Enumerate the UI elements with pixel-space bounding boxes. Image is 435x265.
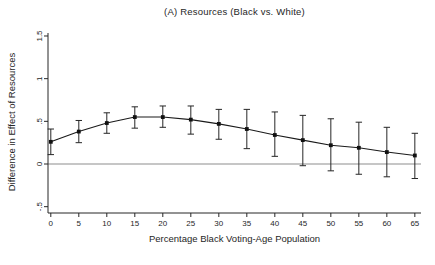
- data-point-marker: [301, 138, 305, 142]
- data-point-marker: [161, 115, 165, 119]
- data-point-marker: [413, 154, 417, 158]
- data-point-marker: [385, 150, 389, 154]
- x-tick-label: 50: [326, 219, 335, 228]
- data-point-marker: [245, 127, 249, 131]
- y-tick-label: .5: [35, 117, 44, 124]
- data-point-marker: [273, 133, 277, 137]
- data-point-marker: [217, 122, 221, 126]
- x-tick-label: 45: [298, 219, 307, 228]
- y-tick-label: 0: [35, 161, 44, 166]
- x-tick-label: 35: [242, 219, 251, 228]
- data-point-marker: [357, 146, 361, 150]
- data-point-marker: [77, 130, 81, 134]
- y-tick-label: -.5: [35, 201, 44, 211]
- x-tick-label: 25: [186, 219, 195, 228]
- resources-chart-svg: -.50.511.505101520253035404550556065: [0, 0, 435, 265]
- x-tick-label: 40: [270, 219, 279, 228]
- x-tick-label: 10: [102, 219, 111, 228]
- x-tick-label: 5: [77, 219, 82, 228]
- data-point-marker: [189, 118, 193, 122]
- x-tick-label: 15: [130, 219, 139, 228]
- y-tick-label: 1: [35, 76, 44, 81]
- y-tick-label: 1.5: [35, 30, 44, 42]
- figure-panel-a-resources: (A) Resources (Black vs. White) Differen…: [0, 0, 435, 265]
- x-tick-label: 60: [382, 219, 391, 228]
- data-point-marker: [329, 143, 333, 147]
- x-axis-title: Percentage Black Voting-Age Population: [48, 233, 421, 244]
- x-tick-label: 0: [49, 219, 54, 228]
- x-tick-label: 55: [354, 219, 363, 228]
- data-point-marker: [105, 121, 109, 125]
- x-tick-label: 65: [410, 219, 419, 228]
- data-point-marker: [49, 140, 53, 144]
- x-tick-label: 30: [214, 219, 223, 228]
- x-tick-label: 20: [158, 219, 167, 228]
- data-point-marker: [133, 115, 137, 119]
